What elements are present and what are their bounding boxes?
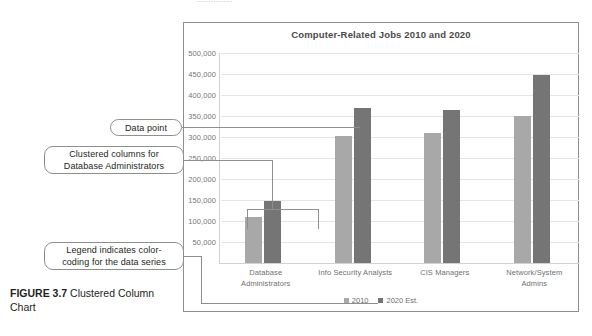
bar-group bbox=[221, 53, 311, 263]
cluster-bracket-top bbox=[247, 209, 319, 210]
callout-clustered-columns-text: Clustered columns for Database Administr… bbox=[64, 148, 164, 172]
y-axis-tick-label: 300,000 bbox=[188, 133, 216, 142]
chart-title: Computer-Related Jobs 2010 and 2020 bbox=[184, 29, 578, 40]
bar-2010 bbox=[514, 116, 531, 263]
y-axis-tick-label: 150,000 bbox=[188, 196, 216, 205]
x-axis-line bbox=[219, 263, 579, 264]
y-axis-tick-label: 350,000 bbox=[188, 112, 216, 121]
bar-2020-est- bbox=[443, 110, 460, 263]
y-axis-tick-label: 50,000 bbox=[192, 238, 216, 247]
legend-label: 2020 Est. bbox=[386, 296, 418, 305]
legend-swatch-icon bbox=[378, 298, 383, 303]
callout-legend-note-text: Legend indicates color- coding for the d… bbox=[62, 244, 166, 268]
bar-2020-est- bbox=[264, 201, 281, 263]
y-axis-tick-label: 400,000 bbox=[188, 91, 216, 100]
figure-number: FIGURE 3.7 bbox=[10, 287, 67, 299]
leader-line-clustered-v bbox=[272, 160, 273, 209]
x-axis-category-label: DatabaseAdministrators bbox=[221, 267, 311, 289]
page-top-bleed-text: ............... bbox=[196, 0, 416, 6]
callout-legend-note: Legend indicates color- coding for the d… bbox=[44, 242, 184, 270]
bar-group bbox=[400, 53, 490, 263]
leader-line-legend-h2 bbox=[201, 303, 378, 304]
callout-clustered-columns: Clustered columns for Database Administr… bbox=[44, 146, 184, 174]
legend-item: 2020 Est. bbox=[378, 296, 418, 305]
y-axis-tick-label: 200,000 bbox=[188, 175, 216, 184]
leader-line-data-point bbox=[182, 127, 360, 128]
bar-group bbox=[311, 53, 401, 263]
chart-container: Computer-Related Jobs 2010 and 2020 50,0… bbox=[183, 22, 579, 312]
bar-2010 bbox=[335, 136, 352, 263]
leader-line-legend-v bbox=[201, 256, 202, 303]
y-axis-tick-label: 100,000 bbox=[188, 217, 216, 226]
x-axis-category-label: CIS Managers bbox=[400, 267, 490, 278]
callout-data-point-text: Data point bbox=[125, 122, 167, 134]
bar-2020-est- bbox=[533, 75, 550, 263]
figure-caption: FIGURE 3.7 Clustered Column Chart bbox=[10, 286, 180, 314]
y-axis-tick-label: 500,000 bbox=[188, 49, 216, 58]
cluster-bracket-left bbox=[247, 209, 248, 229]
bar-2020-est- bbox=[354, 108, 371, 263]
x-axis-category-label: Network/SystemAdmins bbox=[490, 267, 580, 289]
bar-group bbox=[490, 53, 580, 263]
leader-line-clustered-h bbox=[184, 160, 273, 161]
y-axis-tick-label: 250,000 bbox=[188, 154, 216, 163]
leader-line-legend-h1 bbox=[184, 256, 202, 257]
y-axis-line bbox=[219, 53, 220, 263]
bar-2010 bbox=[424, 133, 441, 263]
callout-data-point: Data point bbox=[110, 119, 182, 136]
cluster-bracket-right bbox=[318, 209, 319, 229]
x-axis-category-label: Info Security Analysts bbox=[311, 267, 401, 278]
chart-plot-area: 50,000100,000150,000200,000250,000300,00… bbox=[221, 53, 579, 263]
y-axis-tick-label: 450,000 bbox=[188, 70, 216, 79]
